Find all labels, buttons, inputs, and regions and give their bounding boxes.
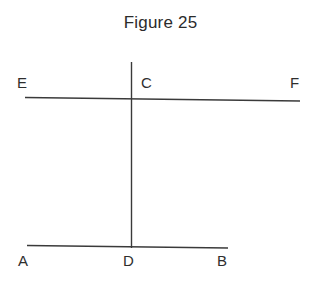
point-label-e: E xyxy=(17,75,27,90)
point-label-d: D xyxy=(123,253,134,268)
geometry-diagram xyxy=(0,0,321,286)
figure-canvas: Figure 25 E C F A D B xyxy=(0,0,321,286)
point-label-c: C xyxy=(141,75,152,90)
point-label-f: F xyxy=(290,75,299,90)
line-segment-ef xyxy=(25,98,300,102)
line-segment-ab xyxy=(27,246,228,249)
point-label-b: B xyxy=(217,253,227,268)
point-label-a: A xyxy=(18,253,28,268)
